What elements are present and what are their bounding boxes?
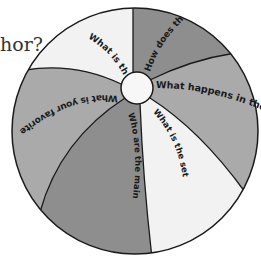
ball-hub bbox=[121, 72, 153, 104]
beach-ball-diagram: hor? bbox=[0, 0, 261, 258]
beach-ball-svg: What is the How does th What happens in … bbox=[0, 0, 261, 258]
